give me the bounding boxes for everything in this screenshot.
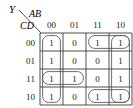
kmap-cell-r2-c2: 0 (95, 74, 100, 84)
column-header-01-1: 01 (70, 20, 79, 30)
kmap-cell-r2-c1: 1 (72, 74, 77, 84)
column-variables-label: AB (28, 8, 41, 19)
kmap-cell-r1-c0: 1 (49, 56, 54, 66)
karnaugh-map-canvas: Y AB CD 00011110 00011110 10111001110110… (0, 0, 133, 108)
column-header-group: 00011110 (47, 20, 126, 30)
row-variables-label: CD (20, 20, 35, 31)
kmap-cell-r3-c1: 0 (72, 92, 77, 102)
row-header-01-1: 01 (26, 56, 35, 66)
kmap-cell-r0-c1: 0 (72, 38, 77, 48)
kmap-cell-r1-c3: 1 (118, 56, 123, 66)
kmap-cell-r3-c2: 1 (95, 92, 100, 102)
kmap-cell-r3-c0: 1 (49, 92, 54, 102)
row-header-group: 00011110 (26, 38, 36, 102)
column-header-10-3: 10 (116, 20, 126, 30)
row-header-10-3: 10 (26, 92, 36, 102)
karnaugh-map-diagram: Y AB CD 00011110 00011110 10111001110110… (0, 0, 133, 108)
column-header-00-0: 00 (47, 20, 57, 30)
kmap-cell-r1-c1: 0 (72, 56, 77, 66)
kmap-cell-r2-c3: 1 (118, 74, 123, 84)
kmap-cell-r3-c3: 1 (118, 92, 123, 102)
column-header-11-2: 11 (93, 20, 102, 30)
kmap-cell-r1-c2: 0 (95, 56, 100, 66)
row-header-00-0: 00 (26, 38, 36, 48)
kmap-cell-r2-c0: 1 (49, 74, 54, 84)
kmap-cell-r0-c2: 1 (95, 38, 100, 48)
output-variable-label: Y (9, 3, 17, 15)
kmap-cell-r0-c0: 1 (49, 38, 54, 48)
row-header-11-2: 11 (26, 74, 35, 84)
kmap-cell-r0-c3: 1 (118, 38, 123, 48)
